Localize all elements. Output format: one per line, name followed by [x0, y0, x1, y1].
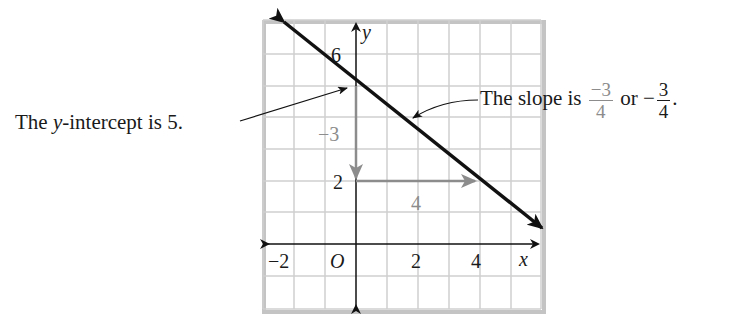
figure: 6 2 y −2 O 2 4 x −3 4 The y-intercept is…: [0, 0, 736, 327]
y-tick-2: 2: [333, 172, 343, 192]
annotation-text: .: [672, 86, 677, 110]
slope-fraction: 34: [657, 80, 671, 121]
slope-annotation: The slope is −34 or −34.: [480, 80, 678, 121]
origin-label: O: [330, 251, 344, 271]
annotation-text: The: [15, 110, 53, 134]
graph-canvas: [0, 0, 736, 327]
axes: [268, 24, 538, 306]
fraction-denominator: 4: [589, 101, 613, 121]
x-axis-label: x: [519, 249, 528, 269]
x-tick-neg2: −2: [268, 251, 289, 271]
grid: [263, 20, 541, 309]
rise-label: −3: [318, 124, 339, 144]
x-tick-4: 4: [471, 251, 481, 271]
annotation-text: The slope is: [480, 86, 587, 110]
annotation-text: -intercept is 5.: [62, 110, 183, 134]
y-intercept-annotation: The y-intercept is 5.: [15, 112, 183, 133]
x-tick-2: 2: [411, 251, 421, 271]
run-label: 4: [411, 193, 421, 213]
rise-run: [356, 86, 475, 181]
fraction-numerator: 3: [657, 80, 671, 101]
y-tick-6: 6: [331, 45, 341, 65]
annotation-var: y: [53, 110, 62, 134]
slope-fraction-gray: −34: [589, 80, 613, 121]
y-axis-label: y: [362, 22, 371, 42]
grid-shadow: [264, 22, 544, 312]
slope-leader: [413, 100, 478, 118]
annotation-text: or −: [615, 86, 655, 110]
fraction-denominator: 4: [657, 101, 671, 121]
fraction-numerator: −3: [589, 80, 613, 101]
